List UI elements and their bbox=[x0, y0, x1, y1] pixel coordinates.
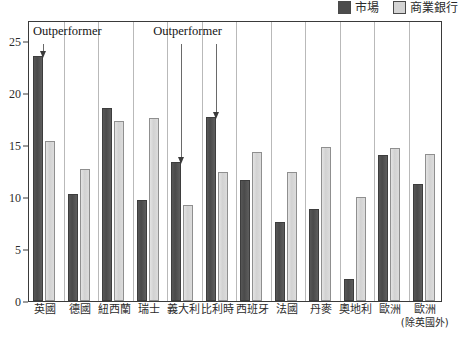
bar-bank[interactable] bbox=[80, 169, 90, 301]
x-axis-label: 瑞士 bbox=[138, 303, 160, 316]
x-axis-label-text: 西班牙 bbox=[236, 303, 269, 316]
legend-item-market: 市場 bbox=[338, 1, 379, 14]
x-axis-label-text: 奧地利 bbox=[339, 303, 372, 316]
bar-market[interactable] bbox=[344, 279, 354, 301]
y-axis-tick-label: 25 bbox=[9, 34, 21, 49]
bar-market[interactable] bbox=[68, 194, 78, 301]
bar-market[interactable] bbox=[413, 184, 423, 301]
bar-market[interactable] bbox=[275, 222, 285, 301]
bar-market[interactable] bbox=[240, 180, 250, 301]
y-axis-tick: 10 bbox=[9, 190, 28, 205]
x-axis-label: 歐洲(除英國外) bbox=[401, 303, 449, 329]
bar-group bbox=[202, 22, 237, 301]
x-axis-sublabel-text: (除英國外) bbox=[401, 316, 449, 329]
outperformer-annotation-label: Outperformer bbox=[33, 24, 102, 39]
bar-bank[interactable] bbox=[218, 172, 228, 301]
x-axis-label-text: 瑞士 bbox=[138, 303, 160, 316]
bar-market[interactable] bbox=[206, 117, 216, 301]
x-axis-label: 西班牙 bbox=[236, 303, 269, 316]
bar-bank[interactable] bbox=[425, 154, 435, 301]
outperformer-arrow-icon bbox=[216, 44, 217, 113]
bar-group bbox=[64, 22, 99, 301]
x-axis-label: 奧地利 bbox=[339, 303, 372, 316]
bar-group bbox=[236, 22, 271, 301]
bar-bank[interactable] bbox=[183, 205, 193, 301]
y-axis-tick: 15 bbox=[9, 138, 28, 153]
x-axis-label: 英國 bbox=[34, 303, 56, 316]
outperformer-arrow-icon bbox=[43, 44, 44, 52]
bar-bank[interactable] bbox=[149, 118, 159, 301]
legend-label-bank: 商業銀行 bbox=[410, 2, 458, 14]
y-axis-tick-label: 5 bbox=[15, 242, 21, 257]
outperformer-arrow-icon bbox=[181, 44, 182, 158]
x-axis-label-text: 歐洲 bbox=[379, 303, 401, 316]
bar-bank[interactable] bbox=[390, 148, 400, 301]
y-axis-tick: 25 bbox=[9, 34, 28, 49]
outperformer-annotation-label: Outperformer bbox=[153, 24, 222, 39]
x-axis-label: 比利時 bbox=[201, 303, 234, 316]
bar-bank[interactable] bbox=[114, 121, 124, 301]
x-axis-label-text: 英國 bbox=[34, 303, 56, 316]
bar-bank[interactable] bbox=[252, 152, 262, 301]
bar-market[interactable] bbox=[33, 56, 43, 301]
y-axis-tick-label: 0 bbox=[15, 295, 21, 310]
bar-group bbox=[29, 22, 64, 301]
x-axis-label-text: 紐西蘭 bbox=[98, 303, 131, 316]
bar-group bbox=[340, 22, 375, 301]
x-axis-label-text: 義大利 bbox=[167, 303, 200, 316]
x-axis-label-text: 法國 bbox=[276, 303, 298, 316]
legend-swatch-bank-icon bbox=[393, 1, 406, 14]
bar-group bbox=[271, 22, 306, 301]
y-axis-tick-label: 15 bbox=[9, 138, 21, 153]
bar-bank[interactable] bbox=[356, 197, 366, 301]
y-axis: 0510152025 bbox=[0, 21, 28, 302]
bar-bank[interactable] bbox=[287, 172, 297, 301]
bar-group bbox=[167, 22, 202, 301]
x-axis-label-text: 德國 bbox=[69, 303, 91, 316]
plot-inner: OutperformerOutperformer bbox=[29, 22, 441, 301]
y-axis-tick: 0 bbox=[15, 295, 28, 310]
bar-group bbox=[305, 22, 340, 301]
bar-group bbox=[409, 22, 444, 301]
bar-market[interactable] bbox=[171, 162, 181, 301]
x-axis-label: 紐西蘭 bbox=[98, 303, 131, 316]
bar-group bbox=[374, 22, 409, 301]
x-axis-label: 義大利 bbox=[167, 303, 200, 316]
chart-legend: 市場 商業銀行 bbox=[338, 1, 458, 14]
y-axis-tick-label: 20 bbox=[9, 86, 21, 101]
plot-area: OutperformerOutperformer bbox=[28, 21, 442, 302]
y-axis-tick-label: 10 bbox=[9, 190, 21, 205]
x-axis-label: 丹麥 bbox=[310, 303, 332, 316]
bar-bank[interactable] bbox=[45, 141, 55, 301]
bar-group bbox=[98, 22, 133, 301]
y-axis-tick: 20 bbox=[9, 86, 28, 101]
bar-market[interactable] bbox=[102, 108, 112, 301]
x-axis-label: 德國 bbox=[69, 303, 91, 316]
x-axis-label-text: 歐洲 bbox=[414, 303, 436, 316]
bar-market[interactable] bbox=[378, 155, 388, 301]
y-axis-tick: 5 bbox=[15, 242, 28, 257]
bar-group bbox=[133, 22, 168, 301]
bar-bank[interactable] bbox=[321, 147, 331, 301]
legend-swatch-market-icon bbox=[338, 1, 351, 14]
legend-label-market: 市場 bbox=[355, 2, 379, 14]
bar-market[interactable] bbox=[137, 200, 147, 301]
x-axis-label-text: 比利時 bbox=[201, 303, 234, 316]
x-axis-label-text: 丹麥 bbox=[310, 303, 332, 316]
bar-market[interactable] bbox=[309, 209, 319, 301]
x-axis-label: 法國 bbox=[276, 303, 298, 316]
legend-item-bank: 商業銀行 bbox=[393, 1, 458, 14]
x-axis-label: 歐洲 bbox=[379, 303, 401, 316]
